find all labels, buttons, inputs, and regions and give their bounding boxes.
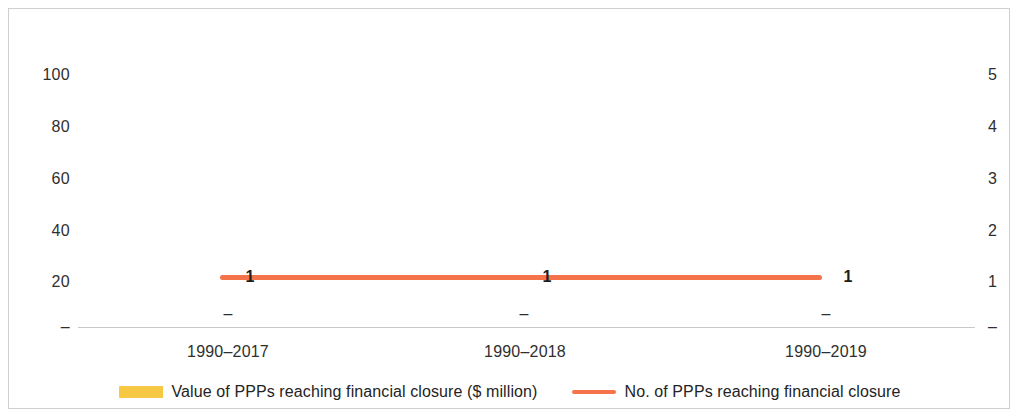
zero-baseline xyxy=(78,327,975,328)
category-axis-label: 1990–2019 xyxy=(785,343,867,361)
right-axis-tick-label: 2 xyxy=(988,222,997,240)
line-data-label: 1 xyxy=(543,268,552,286)
right-axis-tick-label: 3 xyxy=(988,170,997,188)
left-axis-tick-label: – xyxy=(61,318,70,336)
right-axis-tick-label: 1 xyxy=(988,273,997,291)
bar-data-label: – xyxy=(822,305,831,323)
right-axis-tick-label: 5 xyxy=(988,66,997,84)
right-axis-tick-label: 4 xyxy=(988,118,997,136)
category-axis-label: 1990–2018 xyxy=(484,343,566,361)
left-axis-tick-label: 100 xyxy=(42,66,70,84)
left-axis-tick-label: 80 xyxy=(52,118,70,136)
legend-item[interactable]: No. of PPPs reaching financial closure xyxy=(572,383,901,401)
left-axis-tick-label: 60 xyxy=(52,170,70,188)
line-series-no-of-ppps xyxy=(220,275,822,280)
line-data-label: 1 xyxy=(844,268,853,286)
left-axis-tick-label: 20 xyxy=(52,273,70,291)
bar-data-label: – xyxy=(520,305,529,323)
chart-legend: Value of PPPs reaching financial closure… xyxy=(0,383,1019,401)
line-data-label: 1 xyxy=(246,268,255,286)
chart-container: 10080604020– 54321– 111––– 1990–20171990… xyxy=(0,0,1019,417)
legend-item[interactable]: Value of PPPs reaching financial closure… xyxy=(119,383,538,401)
right-axis-tick-label: – xyxy=(988,318,997,336)
legend-item-label: No. of PPPs reaching financial closure xyxy=(625,383,901,401)
left-axis-tick-label: 40 xyxy=(52,222,70,240)
bar-data-label: – xyxy=(224,305,233,323)
legend-line-swatch-icon xyxy=(572,390,616,394)
legend-bar-swatch-icon xyxy=(119,386,163,398)
legend-item-label: Value of PPPs reaching financial closure… xyxy=(172,383,538,401)
category-axis-label: 1990–2017 xyxy=(187,343,269,361)
